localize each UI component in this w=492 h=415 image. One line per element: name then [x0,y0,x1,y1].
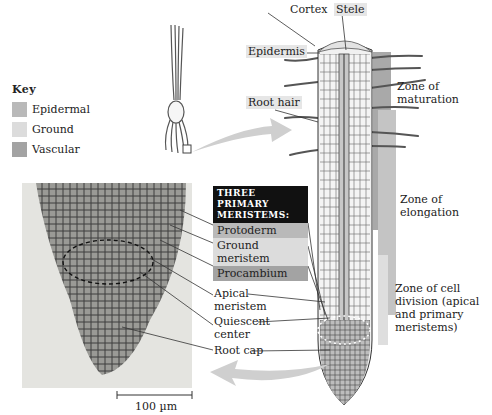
label-stele: Stele [334,3,367,16]
key-label-vascular: Vascular [32,143,80,156]
scale-bar-label: 100 µm [135,400,177,413]
label-apical-meristem: Apical meristem [214,287,267,313]
key-item-ground: Ground [12,122,74,137]
label-epidermis: Epidermis [246,45,307,58]
key-swatch-epidermal [12,102,27,117]
arrow-to-micrograph [210,360,330,386]
key-item-epidermal: Epidermal [12,102,90,117]
meristem-ground-meristem: Ground meristem [213,238,308,266]
label-zone-cell-division: Zone of cell division (apical and primar… [395,282,479,334]
key-swatch-ground [12,122,27,137]
arrow-to-root [192,118,292,152]
key-label-epidermal: Epidermal [32,103,90,116]
key-title: Key [12,83,36,96]
key-swatch-vascular [12,142,27,157]
label-root-hair: Root hair [246,96,302,109]
label-zone-elongation: Zone of elongation [400,193,459,219]
label-root-cap: Root cap [214,344,263,357]
label-quiescent-center: Quiescent center [214,315,270,341]
root-tip-cells [320,320,370,405]
key-label-ground: Ground [32,123,74,136]
label-cortex: Cortex [290,3,327,16]
meristem-protoderm: Protoderm [213,223,308,238]
meristems-heading: Three primary meristems: [213,186,308,223]
label-zone-maturation: Zone of maturation [397,80,459,106]
zoom-region-box [183,145,191,153]
zone-division-bar [378,255,388,345]
onion-plant-illustration [166,25,189,153]
meristems-legend: Three primary meristems: Protoderm Groun… [213,186,308,281]
key-item-vascular: Vascular [12,142,80,157]
meristem-procambium: Procambium [213,266,308,281]
